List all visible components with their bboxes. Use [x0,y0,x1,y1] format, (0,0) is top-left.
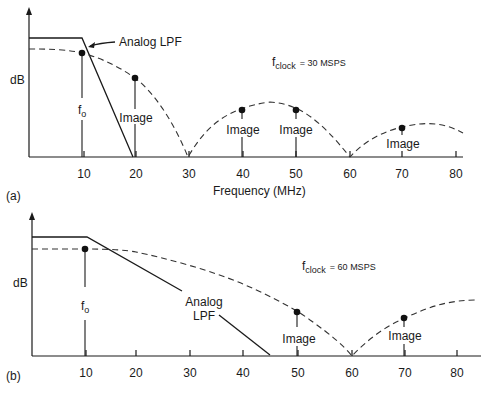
svg-text:40: 40 [236,366,250,380]
marker-image-40-a: Image [226,107,260,157]
svg-text:Image: Image [386,137,420,151]
chart-b: 10 20 30 40 50 60 70 80 dB (b) Analog LP… [6,212,481,383]
marker-image-70-a: Image [386,125,420,151]
svg-text:fo: fo [78,103,86,119]
marker-image-50-b: Image [282,309,316,356]
svg-text:20: 20 [129,366,143,380]
lpf-curve-b [32,237,182,291]
svg-text:50: 50 [291,366,305,380]
x-tick-labels-a: 10 20 30 40 50 60 70 80 [77,167,463,181]
x-ticks-b [86,350,457,356]
panel-label-a: (a) [6,189,21,203]
x-ticks-a [84,151,456,157]
svg-text:Image: Image [388,329,422,343]
marker-image-50-a: Image [279,107,313,157]
panel-label-b: (b) [6,369,21,383]
svg-text:60: 60 [343,167,357,181]
y-axis-label-b: dB [13,276,28,290]
svg-text:Image: Image [226,123,260,137]
x-axis-label-a: Frequency (MHz) [213,184,306,198]
figure-canvas: 10 20 30 40 50 60 70 80 dB Frequency (MH… [0,0,495,395]
y-axis-arrow-icon [29,212,35,220]
svg-text:20: 20 [129,167,143,181]
svg-text:60: 60 [345,366,359,380]
svg-text:80: 80 [449,167,463,181]
svg-text:10: 10 [77,167,91,181]
svg-text:10: 10 [79,366,93,380]
marker-image-70-b: Image [388,315,422,356]
chart-a: 10 20 30 40 50 60 70 80 dB Frequency (MH… [6,7,463,203]
lpf-curve-b-tail [219,315,270,355]
lpf-label-b-line1: Analog [185,295,222,309]
x-tick-labels-b: 10 20 30 40 50 60 70 80 [79,366,464,380]
svg-text:50: 50 [289,167,303,181]
marker-fo-a: fo [78,50,86,157]
lpf-label-b-line2: LPF [193,309,215,323]
svg-text:40: 40 [236,167,250,181]
svg-text:Image: Image [282,332,316,346]
lpf-label-a: Analog LPF [119,35,182,49]
fclock-annotation-a: fclock= 30 MSPS [272,55,346,71]
svg-text:80: 80 [450,366,464,380]
svg-text:30: 30 [183,366,197,380]
fclock-annotation-b: fclock= 60 MSPS [302,259,376,275]
marker-image-20-a: Image [119,75,153,157]
y-axis-arrow-icon [26,7,32,15]
svg-text:70: 70 [398,366,412,380]
marker-fo-b: fo [81,246,89,356]
svg-text:fo: fo [81,299,89,315]
svg-text:Image: Image [119,111,153,125]
y-axis-label-a: dB [10,73,25,87]
svg-text:70: 70 [395,167,409,181]
svg-text:Image: Image [279,123,313,137]
lpf-pointer-arrowhead-icon [88,42,95,48]
svg-text:30: 30 [182,167,196,181]
